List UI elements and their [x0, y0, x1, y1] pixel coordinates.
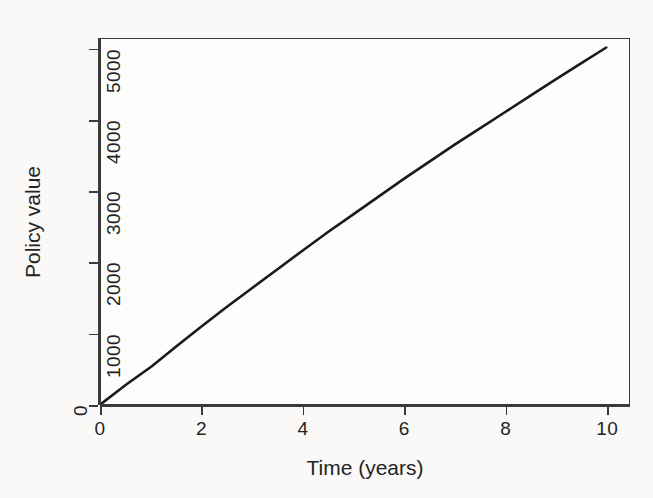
y-axis-tick-label: 3000: [115, 191, 137, 235]
y-axis-line: [98, 38, 100, 405]
x-axis-tick: [506, 406, 508, 415]
y-axis-tick-label: 4000: [115, 120, 137, 164]
chart-figure: 0246810 010002000300040005000 Time (year…: [0, 0, 653, 498]
policy-value-line-series: [101, 39, 629, 404]
x-axis-tick: [201, 406, 203, 415]
y-axis-tick: [89, 49, 98, 51]
x-axis-tick: [607, 406, 609, 415]
y-axis-tick: [89, 334, 98, 336]
y-axis-tick-label: 0: [82, 405, 104, 416]
y-axis-tick-label-text: 4000: [103, 120, 125, 164]
x-axis-tick-label: 8: [500, 418, 511, 440]
x-axis-title: Time (years): [306, 456, 423, 480]
y-axis-tick: [89, 262, 98, 264]
x-axis-line: [100, 405, 630, 407]
y-axis-tick-label-text: 0: [70, 405, 92, 416]
y-axis-tick-label-text: 5000: [103, 49, 125, 93]
y-axis-tick-label: 2000: [115, 262, 137, 306]
y-axis-tick-label: 1000: [115, 334, 137, 378]
y-axis-tick: [89, 191, 98, 193]
y-axis-title: Policy value: [21, 166, 45, 278]
x-axis-tick: [404, 406, 406, 415]
x-axis-tick-label: 0: [95, 418, 106, 440]
y-axis-tick-label: 5000: [115, 49, 137, 93]
policy-value-polyline: [101, 48, 606, 404]
y-axis-tick-label-text: 1000: [103, 334, 125, 378]
x-axis-tick-label: 6: [399, 418, 410, 440]
x-axis-tick-label: 10: [596, 418, 618, 440]
x-axis-tick: [303, 406, 305, 415]
y-axis-tick: [89, 120, 98, 122]
plot-area: [100, 38, 630, 405]
x-axis-tick-label: 2: [196, 418, 207, 440]
x-axis-tick-label: 4: [297, 418, 308, 440]
y-axis-tick-label-text: 2000: [103, 262, 125, 306]
y-axis-tick-label-text: 3000: [103, 191, 125, 235]
